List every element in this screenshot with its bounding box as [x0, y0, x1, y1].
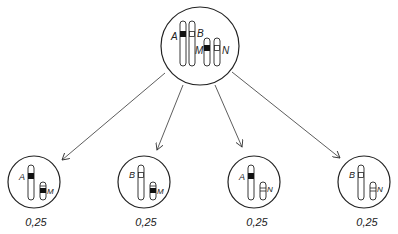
chromosome-a: A — [170, 21, 186, 66]
gamete-4-probability: 0,25 — [356, 216, 378, 228]
gamete-3-short-label: N — [267, 185, 273, 194]
gamete-2-probability: 0,25 — [135, 216, 157, 228]
chromosome-b: B — [189, 21, 204, 66]
label-a: A — [170, 31, 178, 42]
gamete-3-probability: 0,25 — [246, 216, 268, 228]
arrow-to-gamete-3 — [215, 85, 242, 147]
arrow-to-gamete-2 — [157, 85, 183, 150]
gamete-2-long-label: B — [129, 170, 135, 180]
chromosome-m: M — [195, 38, 210, 66]
gamete-4: B N — [338, 156, 390, 208]
gamete-3-long-label: A — [238, 172, 245, 182]
label-b: B — [197, 28, 204, 39]
chromosome-n: N — [214, 38, 230, 66]
gamete-4-long-label: B — [349, 170, 355, 180]
parent-cell: A B M N — [161, 7, 239, 85]
gamete-1-long-label: A — [18, 172, 25, 182]
gamete-1: A M — [8, 156, 60, 208]
gamete-3: A N — [228, 156, 280, 208]
label-n: N — [222, 45, 230, 56]
gamete-1-probability: 0,25 — [25, 216, 47, 228]
gamete-2-short-label: M — [157, 187, 164, 196]
gamete-2: B M — [118, 156, 170, 208]
gamete-1-short-label: M — [47, 187, 54, 196]
segregation-diagram: A B M N A M 0,25 — [0, 0, 398, 234]
arrow-to-gamete-1 — [62, 73, 165, 160]
arrow-to-gamete-4 — [232, 72, 340, 158]
gamete-4-short-label: N — [377, 185, 383, 194]
label-m: M — [195, 45, 204, 56]
